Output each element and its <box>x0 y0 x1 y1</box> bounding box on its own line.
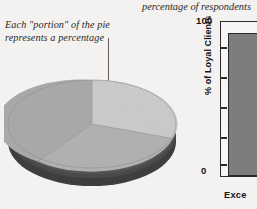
pie-annotation-line-2: represents a percentage <box>5 31 131 44</box>
figure-page: Each "portion" of the pie represents a p… <box>0 0 257 209</box>
y-axis-tick <box>221 47 227 49</box>
y-axis-tick <box>221 77 227 79</box>
y-axis-tick <box>221 107 227 109</box>
pie-chart-svg <box>4 68 180 196</box>
bar-excellent <box>228 33 257 176</box>
pie-annotation-text: Each "portion" of the pie represents a p… <box>5 18 131 44</box>
y-axis-min-label: 0 <box>201 165 206 176</box>
bar-chart-title: percentage of respondents <box>136 1 257 13</box>
x-axis-category-label: Exce <box>224 190 247 200</box>
y-axis-tick <box>221 164 227 166</box>
pie-chart <box>4 68 180 196</box>
y-axis-tick <box>221 137 227 139</box>
y-axis-title: % of Loyal Clients <box>203 35 213 95</box>
pie-annotation-line-1: Each "portion" of the pie <box>5 18 131 31</box>
